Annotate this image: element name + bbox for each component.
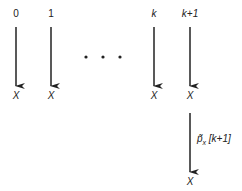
state-label-0: 0 [13,9,19,19]
state-label-k: k [152,9,157,19]
x-label-k: X [151,91,158,101]
diagram-arrows [0,0,242,191]
x-label-1: X [48,91,55,101]
x-label-0: X [13,91,20,101]
x-label-final: X [187,177,194,187]
state-label-k1: k+1 [182,9,198,19]
dot [101,55,104,58]
x-label-k1: X [187,91,194,101]
state-label-1: 1 [48,9,54,19]
dot [118,55,121,58]
dot [84,55,87,58]
transition-label: p̃x [k+1] [197,133,231,146]
